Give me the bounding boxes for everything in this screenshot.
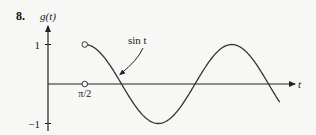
annotation-arrow (120, 48, 143, 75)
series-annotation-label: sin t (128, 34, 147, 46)
x-axis-label: t (298, 78, 302, 90)
x-tick-label: π/2 (78, 88, 91, 99)
problem-number: 8. (16, 9, 25, 23)
y-tick-label: 1 (35, 39, 41, 51)
y-axis-label: g(t) (40, 10, 56, 23)
chart: 8. g(t) t 1−1 π/2 sin t (0, 0, 316, 135)
open-point (82, 81, 88, 87)
open-point (82, 42, 88, 48)
y-tick-label: −1 (28, 118, 40, 130)
